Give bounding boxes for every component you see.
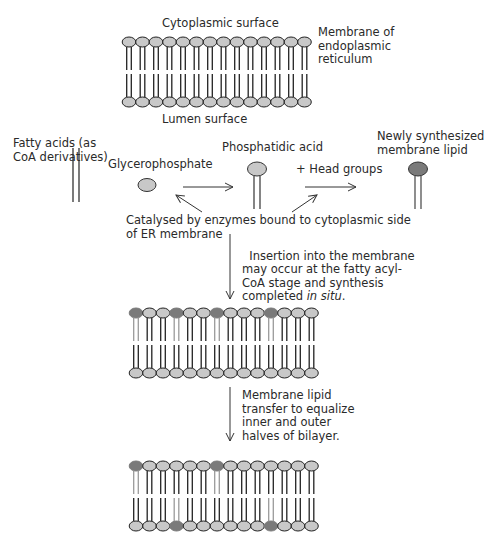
phosphatidic-acid-icon [248, 162, 267, 209]
er-membrane-after-transfer [129, 461, 318, 531]
insertion-label: Insertion into the membrane may occur at… [242, 236, 415, 304]
cytoplasmic-surface-label: Cytoplasmic surface [162, 17, 279, 31]
arrow-catalysed-left [176, 195, 202, 212]
er-membrane-initial [122, 37, 311, 107]
arrow-catalysed-right [292, 195, 317, 212]
er-membrane-label: Membrane of endoplasmic reticulum [318, 26, 394, 67]
phosphatidic-acid-label: Phosphatidic acid [222, 141, 323, 155]
head-groups-label: + Head groups [296, 163, 382, 177]
lumen-surface-label: Lumen surface [162, 113, 247, 127]
newly-synthesized-label: Newly synthesized membrane lipid [377, 130, 484, 157]
transfer-label: Membrane lipid transfer to equalize inne… [242, 389, 354, 443]
er-membrane-after-insertion [129, 308, 318, 378]
insertion-text: Insertion into the membrane may occur at… [242, 249, 415, 290]
glycerophosphate-label: Glycerophosphate [108, 158, 213, 172]
new-membrane-lipid-icon [409, 162, 428, 209]
fatty-acids-label: Fatty acids (as CoA derivatives) [13, 137, 108, 164]
glycerophosphate-icon [138, 179, 156, 192]
